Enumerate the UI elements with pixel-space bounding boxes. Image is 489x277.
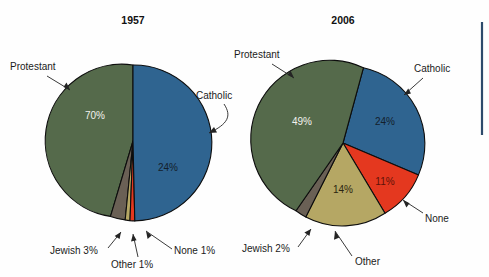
callout-1957-catholic-label: Catholic bbox=[196, 90, 232, 101]
callout-1957-protestant-label: Protestant bbox=[10, 61, 56, 72]
callout-2006-catholic-label: Catholic bbox=[414, 63, 450, 74]
arrowhead-1957-none bbox=[146, 231, 152, 239]
arrowhead-1957-jewish bbox=[115, 232, 121, 239]
arrowhead-1957-other bbox=[131, 234, 137, 241]
callout-1957-jewish-label: Jewish 3% bbox=[50, 245, 98, 256]
slice-1957-catholic bbox=[133, 65, 212, 221]
slice-2006-catholic-value: 24% bbox=[375, 116, 395, 127]
slice-2006-protestant-value: 49% bbox=[292, 116, 312, 127]
arrowhead-2006-other bbox=[334, 231, 339, 240]
chart-2006: 2006 49% 24% 11% 14% Protestant Catholic bbox=[234, 14, 450, 267]
callout-1957-other-label: Other 1% bbox=[111, 259, 153, 270]
callout-2006-none-label: None bbox=[425, 213, 449, 224]
callout-2006-other-label: Other bbox=[355, 256, 381, 267]
arrowhead-2006-none bbox=[403, 200, 410, 208]
chart-1957-title: 1957 bbox=[121, 14, 145, 26]
arrowhead-2006-jewish bbox=[304, 229, 311, 236]
callout-2006-jewish-label: Jewish 2% bbox=[242, 243, 290, 254]
callout-2006-protestant-label: Protestant bbox=[234, 49, 280, 60]
pie-charts-figure: 1957 70% 24% Protestant Catholic Jewish … bbox=[0, 0, 489, 277]
leader-1957-catholic bbox=[209, 104, 228, 133]
chart-2006-title: 2006 bbox=[331, 14, 355, 26]
callout-1957-none-label: None 1% bbox=[174, 245, 215, 256]
chart-1957: 1957 70% 24% Protestant Catholic Jewish … bbox=[10, 14, 232, 270]
slice-2006-none-value: 11% bbox=[375, 176, 394, 187]
slice-1957-catholic-value: 24% bbox=[158, 162, 178, 173]
figure-canvas: 1957 70% 24% Protestant Catholic Jewish … bbox=[0, 0, 489, 277]
slice-2006-other-value: 14% bbox=[333, 184, 353, 195]
slice-1957-protestant-value: 70% bbox=[85, 110, 105, 121]
leader-1957-none bbox=[146, 231, 172, 249]
